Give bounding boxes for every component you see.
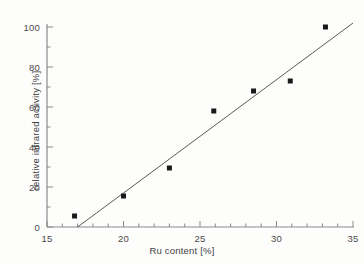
fit-line (78, 23, 353, 227)
x-axis-tick-label: 25 (195, 233, 206, 244)
y-axis-tick-label: 60 (8, 102, 40, 113)
data-point-marker (72, 214, 77, 219)
data-point-marker (288, 79, 293, 84)
data-point-marker (211, 109, 216, 114)
x-axis-tick-label: 35 (348, 233, 359, 244)
data-point-marker (167, 166, 172, 171)
x-axis-tick-label: 30 (271, 233, 282, 244)
scatter-plot-canvas (0, 0, 364, 264)
y-axis-tick-label: 0 (8, 222, 40, 233)
data-point-marker (121, 194, 126, 199)
chart-figure: relative infrared activity [%] Ru conten… (0, 0, 364, 264)
data-point-marker (323, 25, 328, 30)
y-axis-tick-label: 100 (8, 22, 40, 33)
x-axis-tick-label: 15 (42, 233, 53, 244)
data-point-marker (251, 89, 256, 94)
x-axis-title: Ru content [%] (149, 245, 214, 256)
x-axis-tick-label: 20 (118, 233, 129, 244)
y-axis-tick-label: 20 (8, 182, 40, 193)
y-axis-tick-label: 80 (8, 62, 40, 73)
y-axis-tick-label: 40 (8, 142, 40, 153)
